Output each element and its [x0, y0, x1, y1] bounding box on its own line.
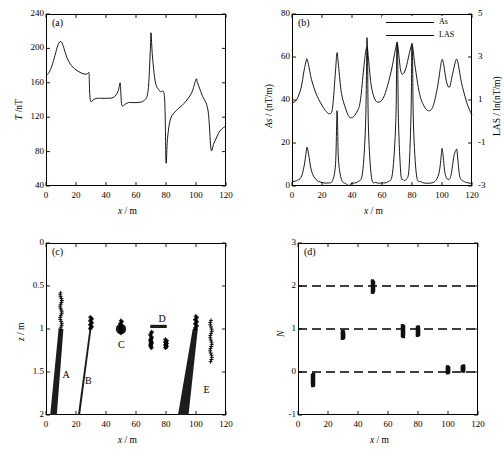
legend-line-as	[386, 22, 434, 23]
solution-marker	[60, 312, 64, 316]
solution-marker	[208, 336, 212, 340]
ytick-label-right: 5	[478, 8, 483, 18]
xtick-label: 80	[152, 190, 180, 200]
xtick-label: 100	[428, 190, 456, 200]
legend-line-las	[386, 35, 434, 36]
xtick-label: 40	[344, 419, 372, 429]
xtick-label: 40	[338, 190, 366, 200]
body-label-b: B	[85, 375, 92, 386]
estimate-point	[401, 324, 404, 327]
estimate-point	[312, 373, 315, 376]
xtick-label: 60	[122, 190, 150, 200]
estimate-point	[446, 365, 449, 368]
xtick-label: 0	[32, 190, 60, 200]
xtick-label: 60	[368, 190, 396, 200]
body-label-a: A	[63, 369, 70, 380]
solution-marker	[208, 349, 212, 353]
ytick-label: 60	[258, 51, 290, 61]
xtick-label: 20	[62, 419, 90, 429]
solution-marker	[209, 325, 213, 329]
solution-marker	[209, 344, 213, 348]
xtick-label: 0	[284, 419, 312, 429]
panel-b-curve-LAS	[292, 44, 472, 118]
xtick-label: 100	[182, 190, 210, 200]
panel-b: (b) 020406080 -3-1135 020406080100120 x …	[252, 0, 504, 229]
solution-marker	[209, 318, 213, 322]
xtick-label: 100	[182, 419, 210, 429]
solution-marker	[58, 317, 62, 321]
solution-marker	[59, 319, 63, 323]
panel-b-xaxis-title: x / m	[364, 206, 383, 216]
panel-c-yaxis-title: z / m	[16, 323, 26, 341]
geologic-body-a	[50, 329, 63, 415]
xtick-label: 20	[62, 190, 90, 200]
ytick-label: 40	[12, 180, 44, 190]
body-label-c: C	[118, 339, 125, 350]
geologic-body-b	[78, 325, 92, 415]
body-label-d: D	[159, 313, 166, 324]
solution-marker	[209, 358, 213, 362]
ytick-label: 40	[258, 94, 290, 104]
xtick-label: 100	[434, 419, 462, 429]
geologic-body-e	[178, 329, 198, 415]
panel-b-y2axis-title: LAS / ln(nT/m)	[492, 76, 502, 136]
solution-marker	[209, 360, 213, 364]
solution-marker	[59, 314, 63, 318]
solution-marker	[59, 302, 63, 306]
panel-b-curve-As	[292, 31, 472, 186]
ytick-label: 240	[12, 8, 44, 18]
solution-marker	[208, 323, 212, 327]
xtick-label: 120	[458, 190, 486, 200]
panel-a: (a) 4080120160200240 020406080100120 x /…	[0, 0, 252, 229]
geologic-body-d	[150, 325, 167, 328]
estimate-point	[417, 325, 420, 328]
solution-marker	[59, 308, 63, 312]
solution-marker	[210, 342, 214, 346]
estimate-point	[462, 364, 465, 367]
body-label-e: E	[204, 384, 210, 395]
ytick-label-right: -1	[478, 137, 486, 147]
ytick-label: 1.5	[12, 366, 44, 376]
ytick-label: 160	[12, 77, 44, 87]
xtick-label: 20	[308, 190, 336, 200]
solution-marker	[209, 338, 213, 342]
ytick-label-right: 1	[478, 94, 483, 104]
panel-d: (d) -10123 020406080100120 x / m N	[252, 229, 504, 458]
ytick-label: 0	[258, 180, 290, 190]
legend-label-as: As	[439, 17, 448, 26]
ytick-label: 3	[264, 237, 296, 247]
ytick-label: -1	[264, 409, 296, 419]
solution-marker	[209, 331, 213, 335]
xtick-label: 0	[32, 419, 60, 429]
xtick-label: 80	[152, 419, 180, 429]
panel-b-legend: As LAS	[382, 16, 470, 42]
xtick-label: 60	[122, 419, 150, 429]
panel-c: (c) 00.511.52 020406080100120 ABCDE x / …	[0, 229, 252, 458]
xtick-label: 120	[464, 419, 492, 429]
panel-a-yaxis-title: T /nT	[14, 99, 24, 120]
solution-marker	[60, 323, 64, 327]
solution-marker	[58, 306, 62, 310]
estimate-point	[371, 279, 374, 282]
xtick-label: 80	[398, 190, 426, 200]
panel-c-xaxis-title: x / m	[118, 435, 137, 445]
panel-d-yaxis-title: N	[276, 331, 286, 337]
ytick-label: 20	[258, 137, 290, 147]
solution-marker	[209, 351, 213, 355]
ytick-label: 80	[258, 8, 290, 18]
figure-container: (a) 4080120160200240 020406080100120 x /…	[0, 0, 504, 458]
ytick-label: 2	[264, 280, 296, 290]
xtick-label: 20	[314, 419, 342, 429]
estimate-point	[342, 330, 345, 333]
panel-a-xaxis-title: x / m	[118, 206, 137, 216]
ytick-label: 0.5	[12, 280, 44, 290]
panel-d-xaxis-title: x / m	[370, 435, 389, 445]
xtick-label: 120	[212, 190, 240, 200]
ytick-label-right: 3	[478, 51, 483, 61]
solution-marker	[210, 329, 214, 333]
xtick-label: 40	[92, 190, 120, 200]
ytick-label: 0	[12, 237, 44, 247]
ytick-label-right: -3	[478, 180, 486, 190]
ytick-label: 80	[12, 146, 44, 156]
solution-marker	[59, 295, 63, 299]
